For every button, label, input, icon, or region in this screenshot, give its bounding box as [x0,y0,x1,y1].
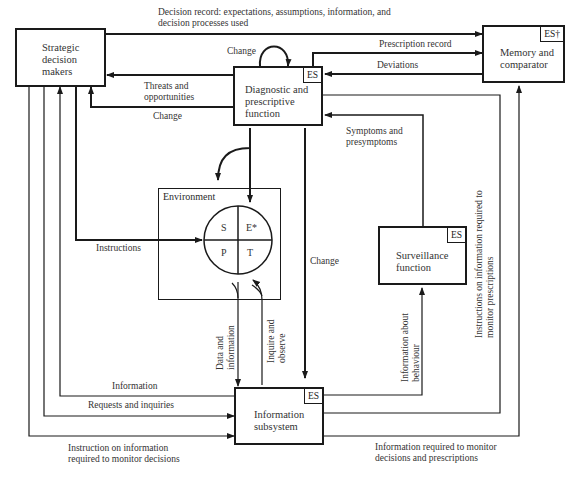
edge-label-decision-record: Decision record: expectations, assumptio… [158,7,398,29]
edge-label-deviations: Deviations [377,60,418,71]
edge-label-inquire-observe: Inquire and observe [266,308,288,363]
edge-label-prescription-record: Prescription record [379,39,452,50]
quadrant-t: T [247,247,253,258]
edge-label-info-monitor-decisions-prescriptions: Information required to monitor decision… [375,442,510,464]
quadrant-e: E* [246,222,257,233]
edge-label-data-information: Data and information [215,310,237,370]
environment-node: Environment [158,188,281,300]
information-label: Information subsystem [254,409,309,433]
diagnostic-prescriptive-node: ES Diagnostic and prescriptive function [233,66,323,126]
surveillance-label: Surveillance function [396,250,456,274]
es-tag: ES [447,228,465,243]
environment-label: Environment [163,191,215,202]
edge-label-instructions-monitor-prescriptions: Instructions on information required to … [474,178,496,338]
edge-label-requests: Requests and inquiries [88,400,174,411]
edge-label-change-info: Change [310,256,339,267]
edge-label-info-behaviour: Information about behaviour [400,312,422,382]
memory-label: Memory and comparator [500,47,555,71]
edge-label-symptoms: Symptoms and presymptoms [346,126,410,148]
edge-label-information: Information [112,381,157,392]
edge-label-change-strategic: Change [153,111,182,122]
edge-label-threats: Threats and opportunities [144,81,204,103]
diagnostic-label: Diagnostic and prescriptive function [245,84,311,120]
es-dagger-tag: ES† [540,27,563,42]
edge-label-instructions: Instructions [96,243,141,254]
memory-comparator-node: ES† Memory and comparator [482,25,565,83]
quadrant-s: S [221,222,227,233]
es-tag: ES [304,389,322,404]
information-subsystem-node: ES Information subsystem [234,387,324,445]
strategic-label: Strategic decision makers [42,42,97,78]
surveillance-node: ES Surveillance function [378,226,467,285]
strategic-decision-makers-node: Strategic decision makers [15,28,106,87]
edge-label-change-loop: Change [227,46,256,57]
es-tag: ES [303,68,321,83]
edge-label-instruction-monitor-decisions: Instruction on information required to m… [68,443,188,465]
quadrant-p: P [221,247,227,258]
